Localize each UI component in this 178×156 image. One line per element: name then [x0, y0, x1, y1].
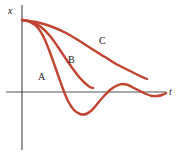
curve-label-c: C: [99, 35, 106, 46]
chart-background: [0, 0, 178, 156]
x-axis-label: t: [169, 86, 172, 97]
y-axis-label: x: [7, 5, 13, 16]
curve-label-a: A: [38, 71, 46, 82]
curve-label-b: B: [68, 54, 75, 65]
damping-figure: x t A B C: [0, 0, 178, 156]
damping-chart-svg: x t A B C: [0, 0, 178, 156]
